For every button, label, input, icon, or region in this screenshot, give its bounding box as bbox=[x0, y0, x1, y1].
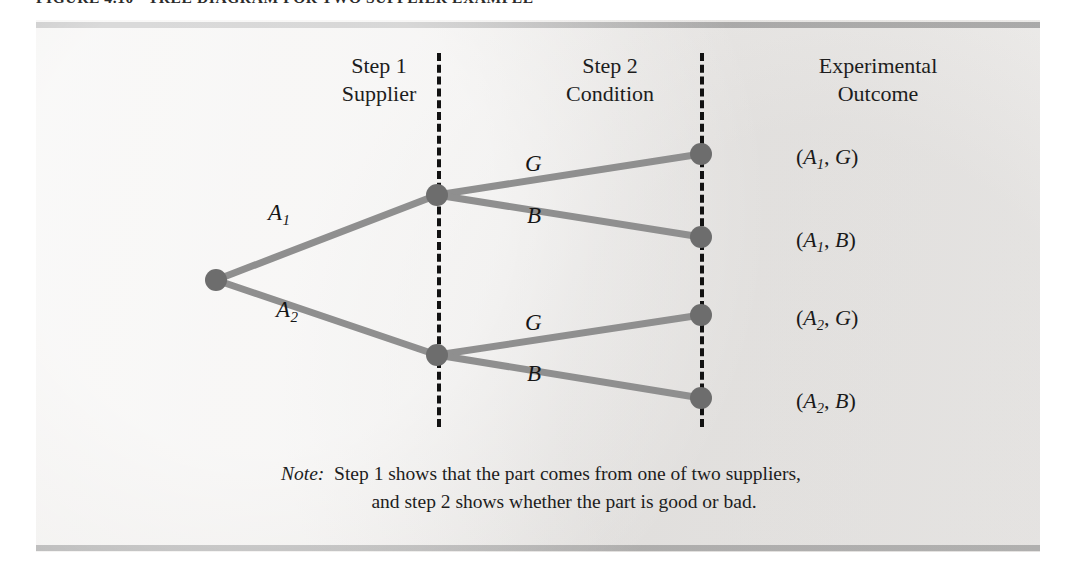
figure-caption: FIGURE 4.10TREE DIAGRAM FOR TWO SUPPLIER… bbox=[36, 0, 1036, 9]
column-heading-step1-line2: Supplier bbox=[279, 80, 479, 108]
tree-node-a2-g bbox=[690, 304, 712, 326]
outcome-4-subscript: 2 bbox=[817, 400, 824, 416]
branch-label-g-lower: G bbox=[525, 310, 542, 336]
branch-label-b-lower: B bbox=[527, 361, 541, 387]
branch-label-a1: A1 bbox=[268, 200, 290, 229]
tree-node-a1 bbox=[426, 184, 448, 206]
branch-root-to-a1 bbox=[216, 195, 437, 280]
figure-note-text-1: Step 1 shows that the part comes from on… bbox=[334, 463, 801, 484]
outcome-1-second: G bbox=[835, 144, 851, 169]
branch-label-a1-subscript: 1 bbox=[283, 212, 291, 228]
column-heading-step2: Step 2 Condition bbox=[510, 52, 710, 108]
column-heading-step1-line1: Step 1 bbox=[279, 52, 479, 80]
column-heading-step2-line2: Condition bbox=[510, 80, 710, 108]
outcome-3-second: G bbox=[835, 305, 851, 330]
branch-a1-to-g bbox=[437, 154, 701, 195]
outcome-3-close: ) bbox=[851, 305, 858, 330]
outcome-label-a2-g: (A2, G) bbox=[796, 305, 986, 334]
outcome-3-subscript: 2 bbox=[817, 317, 824, 333]
tree-nodes bbox=[205, 143, 712, 409]
figure-note-label: Note: bbox=[281, 463, 324, 484]
outcome-2-close: ) bbox=[848, 227, 855, 252]
tree-node-a1-b bbox=[690, 226, 712, 248]
branch-a2-to-g bbox=[437, 315, 701, 355]
tree-node-a2-b bbox=[690, 387, 712, 409]
column-heading-step1: Step 1 Supplier bbox=[279, 52, 479, 108]
branch-root-to-a2 bbox=[216, 280, 437, 355]
figure-note-line-2: and step 2 shows whether the part is goo… bbox=[36, 488, 1040, 516]
figure-panel: Step 1 Supplier Step 2 Condition Experim… bbox=[36, 20, 1040, 552]
outcome-4-letter: A bbox=[803, 388, 816, 413]
figure-note-line-1: Note: Step 1 shows that the part comes f… bbox=[36, 460, 1040, 488]
outcome-2-letter: A bbox=[803, 227, 816, 252]
outcome-4-close: ) bbox=[848, 388, 855, 413]
column-heading-outcome: Experimental Outcome bbox=[763, 52, 993, 108]
branch-label-a2: A2 bbox=[276, 297, 298, 326]
outcome-4-second: B bbox=[835, 388, 848, 413]
branch-label-a2-letter: A bbox=[276, 297, 290, 322]
outcome-3-separator: , bbox=[824, 305, 835, 330]
outcome-4-separator: , bbox=[824, 388, 835, 413]
figure-caption-number: FIGURE 4.10 bbox=[36, 0, 134, 6]
tree-branches bbox=[216, 154, 701, 398]
column-heading-outcome-line1: Experimental bbox=[763, 52, 993, 80]
figure-caption-title: TREE DIAGRAM FOR TWO SUPPLIER EXAMPLE bbox=[148, 0, 534, 6]
outcome-2-separator: , bbox=[824, 227, 835, 252]
branch-label-a1-letter: A bbox=[268, 200, 282, 225]
outcome-1-letter: A bbox=[803, 144, 816, 169]
branch-label-a2-subscript: 2 bbox=[291, 309, 299, 325]
branch-a2-to-b bbox=[437, 355, 701, 398]
outcome-3-letter: A bbox=[803, 305, 816, 330]
outcome-1-separator: , bbox=[824, 144, 835, 169]
tree-node-a2 bbox=[426, 344, 448, 366]
outcome-label-a1-g: (A1, G) bbox=[796, 144, 986, 173]
tree-node-a1-g bbox=[690, 143, 712, 165]
outcome-2-second: B bbox=[835, 227, 848, 252]
branch-label-g-upper: G bbox=[525, 151, 542, 177]
column-heading-step2-line1: Step 2 bbox=[510, 52, 710, 80]
outcome-1-subscript: 1 bbox=[817, 156, 824, 172]
branch-a1-to-b bbox=[437, 195, 701, 237]
figure-note: Note: Step 1 shows that the part comes f… bbox=[36, 460, 1040, 515]
outcome-label-a1-b: (A1, B) bbox=[796, 227, 986, 256]
branch-label-b-upper: B bbox=[527, 203, 541, 229]
outcome-1-close: ) bbox=[851, 144, 858, 169]
outcome-2-subscript: 1 bbox=[817, 239, 824, 255]
tree-node-root bbox=[205, 269, 227, 291]
outcome-label-a2-b: (A2, B) bbox=[796, 388, 986, 417]
column-heading-outcome-line2: Outcome bbox=[763, 80, 993, 108]
